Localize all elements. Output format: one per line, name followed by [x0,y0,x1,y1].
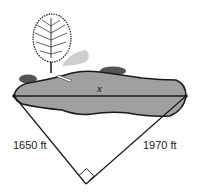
right-leg-label: 1970 ft [143,139,177,151]
left-leg-label: 1650 ft [13,139,47,151]
lake-triangle-diagram [0,0,198,192]
lake-width-label: x [97,82,102,94]
tree-icon [33,14,71,62]
right-angle-marker [79,169,94,185]
